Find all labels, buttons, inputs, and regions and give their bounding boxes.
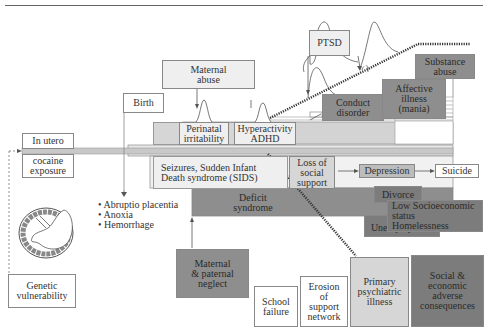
school-failure-box: School failure [254,286,298,327]
loss-social-support-box: Loss of social support [289,156,335,189]
maternal-abuse-box: Maternal abuse [162,60,255,89]
hyperactivity-adhd-box: Hyperactivity ADHD [234,122,296,145]
affective-illness-box: Affective illness (mania) [382,79,446,119]
maternal-paternal-neglect-box: Maternal & paternal neglect [176,249,249,298]
fetus-illustration [19,208,73,258]
perinatal-irritability-box: Perinatal irritability [179,122,229,145]
suicide-box: Suicide [435,164,479,178]
depression-box: Depression [359,164,415,178]
genetic-vulnerability-box: Genetic vulnerability [8,274,76,308]
deficit-syndrome-box: Deficit syndrome [193,189,313,217]
in-utero-label: In utero [22,133,74,149]
ptsd-box: PTSD [309,30,350,56]
social-economic-consequences-box: Social & economic adverse consequences [411,255,484,327]
complication-item: • Hemorrhage [98,220,178,230]
birth-label: Birth [123,93,164,113]
low-ses-box: Low Socioeconomic status Homelessness [387,200,483,232]
primary-psychiatric-illness-box: Primary psychiatric illness [350,257,409,327]
substance-abuse-box: Substance abuse [415,54,475,79]
conduct-disorder-box: Conduct disorder [322,94,384,121]
seizures-sids-box: Seizures, Sudden Infant Death syndrome (… [153,156,288,189]
cocaine-exposure-box: cocaine exposure [22,154,74,178]
birth-complications-list: • Abruptio placentia • Anoxia • Hemorrha… [98,200,178,230]
erosion-support-network-box: Erosion of support network [300,276,348,327]
